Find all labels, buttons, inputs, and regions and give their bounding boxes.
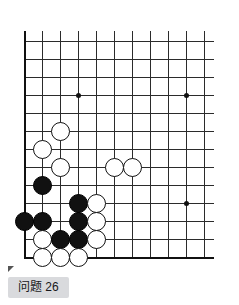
star-point: [184, 201, 189, 206]
white-stone[interactable]: [105, 158, 124, 177]
white-stone[interactable]: [33, 140, 52, 159]
corner-marker-icon: [8, 266, 14, 272]
white-stone[interactable]: [87, 230, 106, 249]
white-stone[interactable]: [51, 158, 70, 177]
white-stone[interactable]: [87, 194, 106, 213]
grid-line-vertical: [150, 31, 151, 257]
grid-line-vertical: [114, 31, 115, 257]
black-stone[interactable]: [69, 230, 88, 249]
star-point: [184, 93, 189, 98]
black-stone[interactable]: [33, 176, 52, 195]
white-stone[interactable]: [123, 158, 142, 177]
white-stone[interactable]: [69, 248, 88, 267]
black-stone[interactable]: [69, 212, 88, 231]
white-stone[interactable]: [51, 122, 70, 141]
go-problem-page: 问题 26: [0, 0, 239, 305]
black-stone[interactable]: [69, 194, 88, 213]
grid-line-vertical: [168, 31, 169, 257]
problem-label: 问题 26: [18, 280, 59, 294]
white-stone[interactable]: [33, 230, 52, 249]
white-stone[interactable]: [87, 212, 106, 231]
black-stone[interactable]: [33, 212, 52, 231]
black-stone[interactable]: [51, 230, 70, 249]
go-board[interactable]: [0, 0, 239, 268]
white-stone[interactable]: [33, 248, 52, 267]
grid-line-vertical: [186, 31, 187, 257]
grid-line-vertical: [132, 31, 133, 257]
grid-line-vertical: [204, 31, 205, 257]
black-stone[interactable]: [15, 212, 34, 231]
white-stone[interactable]: [51, 248, 70, 267]
caption-badge: 问题 26: [8, 277, 69, 298]
grid-line-vertical: [60, 31, 61, 257]
star-point: [76, 93, 81, 98]
